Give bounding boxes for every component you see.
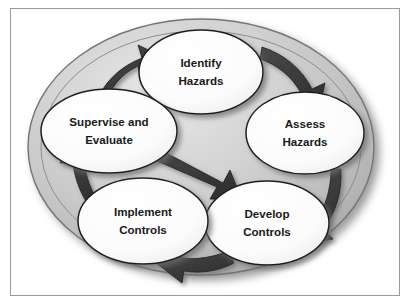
figure-frame: Identify Hazards Assess Hazards Develop … xyxy=(10,8,400,296)
risk-management-cycle-diagram: Identify Hazards Assess Hazards Develop … xyxy=(11,9,399,295)
node-label-assess-hazards-line1: Assess xyxy=(285,117,326,130)
node-label-identify-hazards-line2: Hazards xyxy=(178,74,223,87)
node-label-assess-hazards-line2: Hazards xyxy=(282,135,327,148)
node-label-implement-controls-line1: Implement xyxy=(114,205,172,218)
node-supervise-and-evaluate[interactable]: Supervise and Evaluate xyxy=(41,89,177,173)
node-label-develop-controls-line2: Controls xyxy=(243,225,291,238)
node-label-supervise-and-evaluate-line2: Evaluate xyxy=(85,133,133,146)
node-implement-controls[interactable]: Implement Controls xyxy=(78,178,208,264)
node-label-supervise-and-evaluate-line1: Supervise and xyxy=(69,115,148,128)
node-assess-hazards[interactable]: Assess Hazards xyxy=(246,92,364,174)
node-label-implement-controls-line2: Controls xyxy=(119,223,167,236)
node-label-identify-hazards-line1: Identify xyxy=(180,56,222,69)
node-develop-controls[interactable]: Develop Controls xyxy=(205,181,329,265)
node-label-develop-controls-line1: Develop xyxy=(244,207,289,220)
